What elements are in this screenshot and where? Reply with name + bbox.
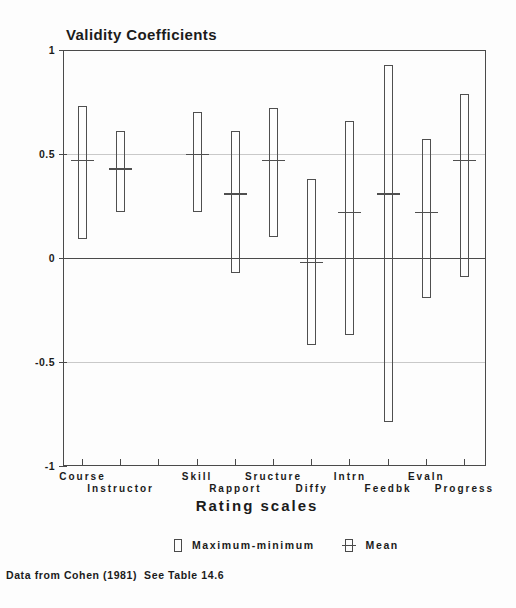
x-tick — [464, 459, 465, 465]
y-tick-label: -0.5 — [17, 356, 55, 369]
mean-tick — [453, 160, 476, 162]
range-bar — [78, 106, 87, 239]
range-bar — [460, 94, 469, 277]
mean-tick — [186, 154, 209, 156]
gridline — [64, 362, 485, 363]
y-tick-label: 0.5 — [17, 148, 55, 161]
range-bar — [384, 65, 393, 423]
legend: Maximum-minimum Mean — [174, 537, 399, 553]
mean-tick — [262, 160, 285, 162]
x-tick — [311, 459, 312, 465]
x-category-label: Instructor — [76, 483, 166, 495]
mean-tick — [224, 193, 247, 195]
range-bar — [193, 112, 202, 212]
y-tick — [59, 362, 67, 363]
x-tick — [388, 459, 389, 465]
mean-tick — [415, 212, 438, 214]
mean-tick-icon — [345, 539, 353, 552]
mean-tick — [109, 168, 132, 170]
range-bar — [269, 108, 278, 237]
x-tick — [82, 459, 83, 465]
mean-tick — [71, 160, 94, 162]
chart-title: Validity Coefficients — [66, 26, 217, 43]
x-tick — [158, 459, 159, 465]
mean-tick — [338, 212, 361, 214]
x-axis-title: Rating scales — [107, 497, 407, 514]
x-tick — [197, 459, 198, 465]
x-tick — [235, 459, 236, 465]
range-bar — [231, 131, 240, 272]
x-category-label: Evaln — [381, 471, 471, 483]
x-tick — [120, 459, 121, 465]
range-bar-icon — [174, 539, 182, 552]
validity-coefficients-figure: Validity Coefficients 10.50-0.5-1CourseI… — [0, 0, 516, 608]
source-caption: Data from Cohen (1981) See Table 14.6 — [6, 569, 224, 581]
y-tick — [59, 154, 67, 155]
legend-range-label: Maximum-minimum — [192, 539, 315, 551]
mean-tick — [300, 262, 323, 264]
x-tick — [426, 459, 427, 465]
y-tick — [59, 50, 67, 51]
x-tick — [349, 459, 350, 465]
range-bar — [116, 131, 125, 212]
mean-tick — [377, 193, 400, 195]
x-tick — [273, 459, 274, 465]
y-tick — [59, 258, 67, 259]
x-category-label: Progress — [420, 483, 510, 495]
y-tick-label: 0 — [17, 252, 55, 265]
range-bar — [422, 139, 431, 297]
y-tick-label: 1 — [17, 44, 55, 57]
x-category-label: Course — [38, 471, 128, 483]
y-tick — [59, 466, 67, 467]
legend-mean-label: Mean — [366, 539, 399, 551]
range-bar — [345, 121, 354, 335]
